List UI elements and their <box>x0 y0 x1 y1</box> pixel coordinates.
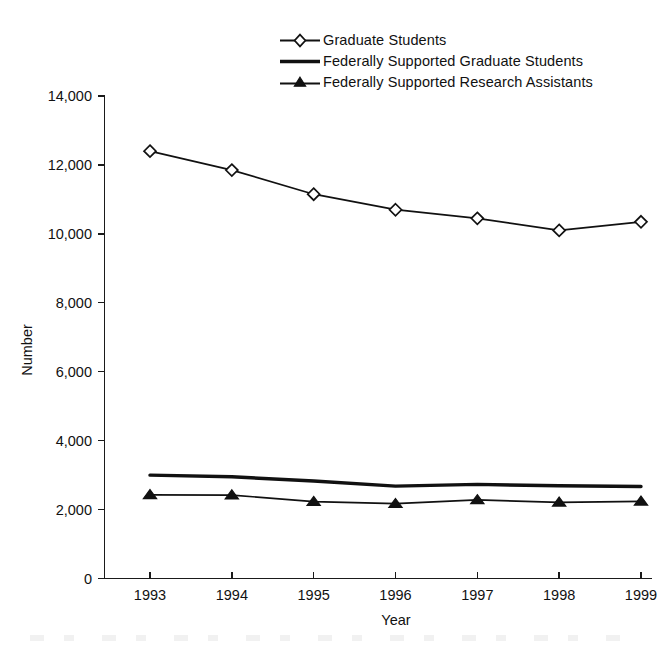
x-tick-label: 1999 <box>625 587 657 603</box>
x-tick-label: 1998 <box>543 587 575 603</box>
scan-artifact <box>30 635 630 641</box>
y-axis-tick-group: 02,0004,0006,0008,00010,00012,00014,000 <box>48 88 105 587</box>
series-federally-supported-graduate-students <box>150 475 641 486</box>
x-tick-label: 1994 <box>216 587 248 603</box>
y-tick-label: 2,000 <box>56 502 92 518</box>
data-point-marker-graduate-students <box>144 145 156 157</box>
series-line-federally-supported-graduate-students <box>150 475 641 486</box>
series-line-graduate-students <box>150 151 641 230</box>
data-point-marker-graduate-students <box>226 164 238 176</box>
y-tick-label: 6,000 <box>56 364 92 380</box>
data-point-marker-graduate-students <box>553 224 565 236</box>
data-point-marker-graduate-students <box>390 204 402 216</box>
chart-canvas: 02,0004,0006,0008,00010,00012,00014,000 … <box>0 0 667 647</box>
data-series-group <box>143 145 647 507</box>
y-tick-label: 14,000 <box>48 88 92 104</box>
series-graduate-students <box>144 145 647 236</box>
data-point-marker-graduate-students <box>308 188 320 200</box>
y-tick-label: 0 <box>84 571 92 587</box>
chart-figure: Graduate Students Federally Supported Gr… <box>0 0 667 647</box>
y-tick-label: 4,000 <box>56 433 92 449</box>
data-point-marker-graduate-students <box>471 212 483 224</box>
series-federally-supported-research-assistants <box>143 490 647 508</box>
x-axis-title: Year <box>381 612 410 628</box>
y-axis-title: Number <box>19 324 35 376</box>
y-tick-label: 12,000 <box>48 157 92 173</box>
y-tick-label: 8,000 <box>56 295 92 311</box>
data-point-marker-graduate-students <box>635 216 647 228</box>
x-tick-label: 1997 <box>461 587 493 603</box>
y-tick-label: 10,000 <box>48 226 92 242</box>
plot-area: 02,0004,0006,0008,00010,00012,00014,000 … <box>0 0 667 647</box>
x-tick-label: 1995 <box>298 587 330 603</box>
x-tick-label: 1993 <box>134 587 166 603</box>
x-tick-label: 1996 <box>379 587 411 603</box>
x-axis-tick-group: 1993199419951996199719981999 <box>134 572 657 603</box>
